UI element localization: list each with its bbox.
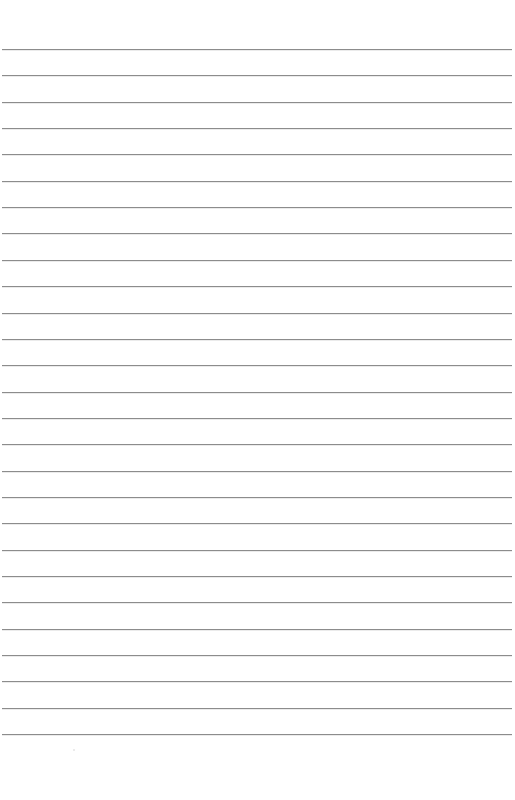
ruled-line	[2, 154, 512, 155]
ruled-line	[2, 128, 512, 129]
ruled-line	[2, 655, 512, 656]
ruled-line	[2, 418, 512, 419]
ruled-line	[2, 576, 512, 577]
ruled-line	[2, 392, 512, 393]
paper-speck	[73, 749, 75, 751]
ruled-line	[2, 365, 512, 366]
ruled-line	[2, 233, 512, 234]
lined-paper-sheet	[0, 0, 515, 800]
ruled-line	[2, 681, 512, 682]
ruled-line	[2, 550, 512, 551]
ruled-line	[2, 102, 512, 103]
ruled-line	[2, 313, 512, 314]
ruled-line	[2, 602, 512, 603]
ruled-line	[2, 629, 512, 630]
ruled-line	[2, 181, 512, 182]
ruled-line	[2, 444, 512, 445]
ruled-line	[2, 75, 512, 76]
ruled-line	[2, 471, 512, 472]
ruled-line	[2, 260, 512, 261]
ruled-line	[2, 286, 512, 287]
ruled-line	[2, 207, 512, 208]
ruled-line	[2, 523, 512, 524]
ruled-line	[2, 49, 512, 50]
ruled-line	[2, 708, 512, 709]
ruled-line	[2, 734, 512, 735]
ruled-line	[2, 339, 512, 340]
ruled-line	[2, 497, 512, 498]
